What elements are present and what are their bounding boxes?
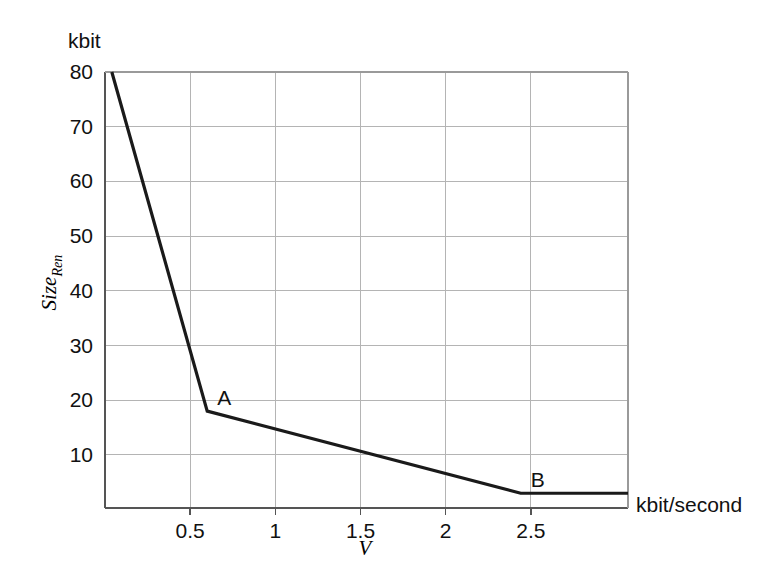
x-tick-label: 1 (245, 520, 305, 541)
point-label-a: A (217, 387, 231, 408)
y-tick-label: 20 (47, 389, 93, 410)
y-tick-label: 10 (47, 444, 93, 465)
x-tick-label: 2 (416, 520, 476, 541)
y-tick-label: 50 (47, 225, 93, 246)
point-label-b: B (531, 469, 545, 490)
grid-lines (105, 72, 628, 508)
data-series-line (112, 72, 628, 493)
x-tick-label: 0.5 (160, 520, 220, 541)
y-tick-label: 40 (47, 280, 93, 301)
y-tick-label: 60 (47, 170, 93, 191)
axis-lines (105, 72, 628, 515)
y-tick-label: 30 (47, 335, 93, 356)
data-line-0 (112, 72, 628, 493)
y-tick-label: 70 (47, 116, 93, 137)
y-tick-label: 80 (47, 61, 93, 82)
x-tick-label: 1.5 (331, 520, 391, 541)
x-tick-label: 2.5 (501, 520, 561, 541)
chart-figure: kbit kbit/second SizeRen V 1020304050607… (0, 0, 781, 585)
plot-area (0, 0, 781, 585)
